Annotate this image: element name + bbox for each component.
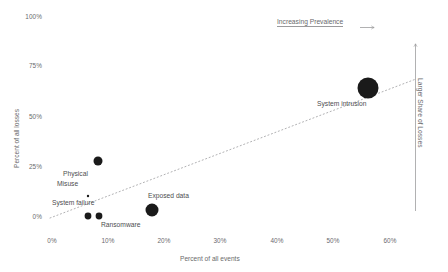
point-label-ransomware: Ransomware bbox=[101, 221, 140, 228]
x-axis-title: Percent of all events bbox=[180, 255, 240, 262]
data-point-ransomware-a bbox=[85, 213, 92, 220]
point-label-physical: Physical bbox=[63, 170, 88, 177]
x-tick-60: 60% bbox=[376, 237, 404, 244]
chart-canvas bbox=[0, 0, 448, 272]
point-label-misuse: Misuse bbox=[57, 180, 78, 187]
x-tick-10: 10% bbox=[94, 237, 122, 244]
point-label-system-intrusion: System intrusion bbox=[317, 100, 366, 107]
x-tick-50: 50% bbox=[319, 237, 347, 244]
data-point-system-intrusion bbox=[358, 78, 379, 99]
x-tick-20: 20% bbox=[150, 237, 178, 244]
annotation-larger-share-of-losses: Larger Share of Losses bbox=[417, 78, 424, 148]
y-axis-title: Percent of all losses bbox=[13, 109, 20, 168]
point-label-system-failure: System failure bbox=[52, 199, 94, 206]
data-point-system-failure bbox=[87, 195, 89, 197]
point-label-exposed-data: Exposed data bbox=[148, 192, 189, 199]
data-point-physical-misuse bbox=[94, 157, 103, 166]
data-point-exposed-data bbox=[146, 204, 159, 217]
x-tick-0: 0% bbox=[38, 237, 66, 244]
y-tick-0: 0% bbox=[8, 213, 42, 220]
annotation-increasing-prevalence: Increasing Prevalence bbox=[277, 18, 343, 27]
x-tick-30: 30% bbox=[206, 237, 234, 244]
x-tick-40: 40% bbox=[263, 237, 291, 244]
y-tick-100: 100% bbox=[8, 13, 42, 20]
scatter-chart: 100% 75% 50% 25% 0% 0% 10% 20% 30% 40% 5… bbox=[0, 0, 448, 272]
data-point-ransomware-b bbox=[96, 213, 103, 220]
y-tick-75: 75% bbox=[8, 62, 42, 69]
